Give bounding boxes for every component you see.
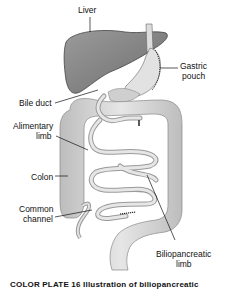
label-alimentary-limb-line2: limb <box>36 131 52 141</box>
label-liver: Liver <box>78 5 96 15</box>
label-common-channel-line1: Common <box>19 204 53 214</box>
label-gastric-pouch-line2: pouch <box>182 71 205 81</box>
esophagus <box>146 24 153 52</box>
label-biliopancreatic-limb-line1: Biliopancreatic <box>156 249 211 259</box>
label-common-channel-line2: channel <box>23 214 53 224</box>
label-bile-duct: Bile duct <box>19 98 52 108</box>
label-biliopancreatic-limb-line2: limb <box>176 259 192 269</box>
label-colon: Colon <box>31 172 53 182</box>
label-gastric-pouch-line1: Gastric <box>180 61 207 71</box>
label-alimentary-limb-line1: Alimentary <box>13 121 53 131</box>
figure-caption: COLOR PLATE 16 Illustration of biliopanc… <box>10 280 199 289</box>
colon <box>60 98 182 270</box>
